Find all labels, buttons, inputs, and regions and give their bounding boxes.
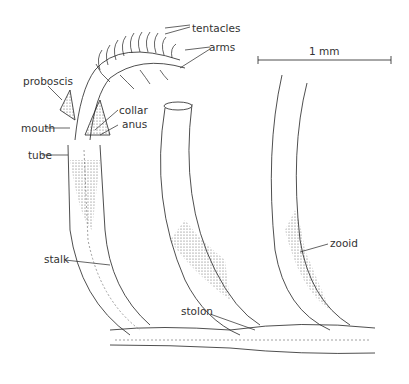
label-tentacles: tentacles: [192, 23, 240, 34]
label-tube: tube: [28, 150, 52, 161]
label-collar: collar: [119, 105, 148, 116]
label-stolon: stolon: [181, 306, 213, 317]
label-arms: arms: [209, 42, 235, 53]
label-anus: anus: [122, 119, 147, 130]
label-stalk: stalk: [44, 254, 69, 265]
label-mouth: mouth: [21, 123, 55, 134]
label-proboscis: proboscis: [23, 76, 73, 87]
stolon-drawing: [110, 324, 375, 353]
left-tube-drawing: [68, 145, 150, 335]
illustration: [0, 0, 409, 384]
scale-bar-label: 1 mm: [309, 46, 339, 57]
scale-bar: [258, 56, 391, 64]
label-zooid: zooid: [330, 238, 358, 249]
right-tube-drawing: [271, 75, 350, 330]
middle-tube-drawing: [161, 102, 261, 335]
